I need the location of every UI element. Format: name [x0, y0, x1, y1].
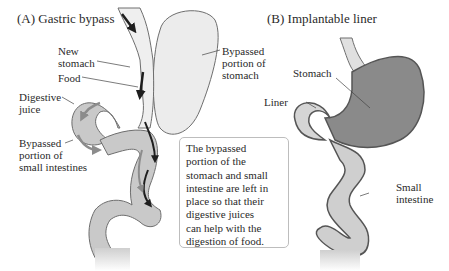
label-bypassed-intestines: Bypassed portion of small intestines: [19, 137, 87, 173]
new-stomach-shape: [118, 8, 154, 128]
liner-loop-shape: [294, 103, 330, 140]
label-liner: Liner: [264, 96, 288, 108]
lined-small-intestine-shape: [316, 140, 368, 256]
panel-b-title: (B) Implantable liner: [267, 11, 377, 27]
label-stomach: Stomach: [293, 67, 332, 79]
intestine-fade: [320, 250, 360, 271]
label-new-stomach: New stomach: [58, 45, 95, 69]
intestine-fade: [95, 248, 130, 271]
label-bypassed-stomach: Bypassed portion of stomach: [222, 45, 266, 81]
small-intestine-shape: [89, 130, 161, 265]
label-small-intestine: Small intestine: [396, 181, 433, 205]
stomach-shape: [325, 56, 424, 147]
panel-a-title: (A) Gastric bypass: [17, 11, 114, 27]
label-digestive-juice: Digestive juice: [19, 91, 61, 115]
label-food: Food: [58, 72, 81, 84]
explanation-callout: The bypassed portion of the stomach and …: [179, 137, 289, 248]
bypassed-stomach-shape: [153, 11, 218, 135]
